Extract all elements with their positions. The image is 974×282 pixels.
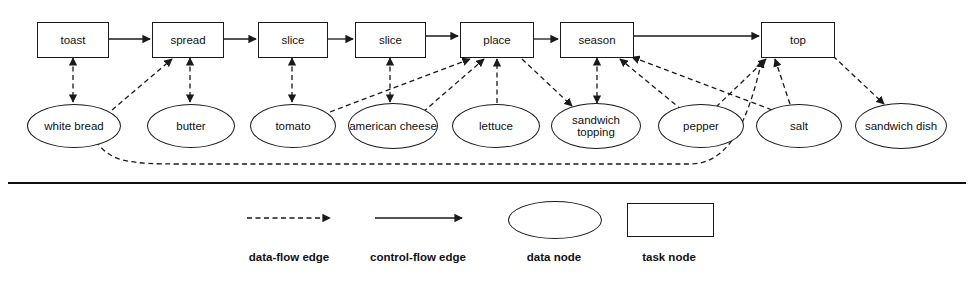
data-node-salt[interactable]: salt xyxy=(756,104,842,148)
task-node-toast[interactable]: toast xyxy=(37,22,109,58)
legend-label-data-flow-edge: data-flow edge xyxy=(249,251,330,263)
task-node-top[interactable]: top xyxy=(761,22,835,58)
legend-label-data-node: data node xyxy=(527,251,581,263)
data-node-white_bread[interactable]: white bread xyxy=(27,104,121,148)
legend-rectangle-icon xyxy=(627,203,714,237)
data-node-american_cheese[interactable]: american cheese xyxy=(348,103,438,149)
legend-ellipse-icon xyxy=(508,201,602,239)
legend-divider xyxy=(8,182,966,184)
legend-label-control-flow-edge: control-flow edge xyxy=(370,251,466,263)
data-node-sandwich_topping[interactable]: sandwich topping xyxy=(551,103,641,149)
task-node-slice2[interactable]: slice xyxy=(355,22,426,58)
data-flow-edge-white-bread-spread xyxy=(112,59,172,110)
data-node-lettuce[interactable]: lettuce xyxy=(452,104,540,148)
task-node-spread[interactable]: spread xyxy=(152,22,224,58)
task-node-season[interactable]: season xyxy=(560,22,634,58)
data-flow-edge-salt-top xyxy=(775,59,790,104)
data-flow-edge-salt-season xyxy=(632,57,772,110)
legend-label-task-node: task node xyxy=(642,251,696,263)
data-flow-edge-american-cheese-place xyxy=(423,59,484,112)
data-flow-edge-pepper-season xyxy=(620,59,682,110)
data-flow-edge-place-sandwich-topping xyxy=(522,59,572,106)
task-node-slice1[interactable]: slice xyxy=(258,22,328,58)
data-node-tomato[interactable]: tomato xyxy=(250,104,336,148)
data-flow-edge-pepper-top xyxy=(716,59,766,107)
task-node-place[interactable]: place xyxy=(460,22,534,58)
data-flow-edge-top-sandwich-dish xyxy=(833,56,884,104)
data-node-sandwich_dish[interactable]: sandwich dish xyxy=(855,103,947,149)
data-node-butter[interactable]: butter xyxy=(147,104,235,148)
data-node-pepper[interactable]: pepper xyxy=(658,104,744,148)
